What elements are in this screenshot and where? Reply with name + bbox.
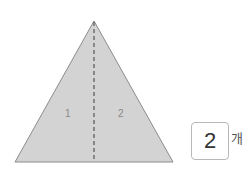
answer-box[interactable]: 2 (191, 122, 229, 160)
unit-label: 개 (231, 128, 243, 147)
answer-value: 2 (204, 128, 216, 154)
part-label-1: 1 (65, 108, 71, 119)
triangle-shape (15, 21, 173, 162)
part-label-2: 2 (118, 108, 124, 119)
